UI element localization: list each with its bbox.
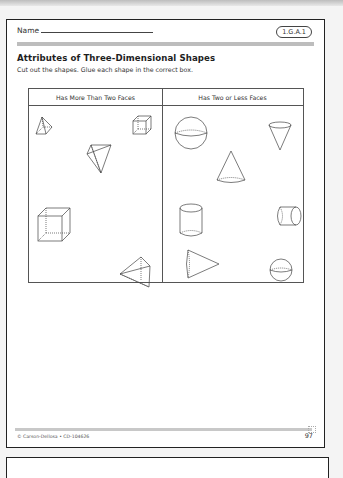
square-pyramid-icon[interactable] xyxy=(35,116,53,136)
page-number: 97 xyxy=(305,432,313,440)
previous-page-edge xyxy=(0,0,343,6)
cube-icon[interactable] xyxy=(132,115,152,135)
sphere-icon[interactable] xyxy=(174,116,208,150)
inverted-pyramid-icon[interactable] xyxy=(86,144,112,174)
next-page-edge xyxy=(6,457,329,478)
sorting-table: Has More Than Two Faces Has Two or Less … xyxy=(28,88,304,283)
sideways-cone-icon[interactable] xyxy=(186,249,220,279)
copyright-text: © Carson-Dellosa • CD-104626 xyxy=(17,434,89,439)
header-divider xyxy=(17,42,314,46)
sphere-icon[interactable] xyxy=(269,258,293,282)
column-divider xyxy=(162,89,163,282)
page-title: Attributes of Three-Dimensional Shapes xyxy=(17,53,215,63)
cone-icon[interactable] xyxy=(216,150,246,184)
name-label: Name xyxy=(17,26,39,35)
cylinder-icon[interactable] xyxy=(179,203,203,238)
cube-icon[interactable] xyxy=(37,207,71,242)
triangular-pyramid-icon[interactable] xyxy=(119,256,151,288)
column-header-more-than-two-faces: Has More Than Two Faces xyxy=(29,89,162,106)
name-field: Name xyxy=(17,26,153,35)
horizontal-cylinder-icon[interactable] xyxy=(274,206,302,226)
worksheet-page: Name 1.G.A.1 Attributes of Three-Dimensi… xyxy=(6,19,325,448)
standard-badge: 1.G.A.1 xyxy=(276,26,312,38)
name-line[interactable] xyxy=(41,26,153,33)
instructions: Cut out the shapes. Glue each shape in t… xyxy=(17,66,193,73)
column-header-two-or-less-faces: Has Two or Less Faces xyxy=(162,89,303,106)
footer-divider xyxy=(15,428,312,431)
inverted-cone-icon[interactable] xyxy=(268,121,292,151)
